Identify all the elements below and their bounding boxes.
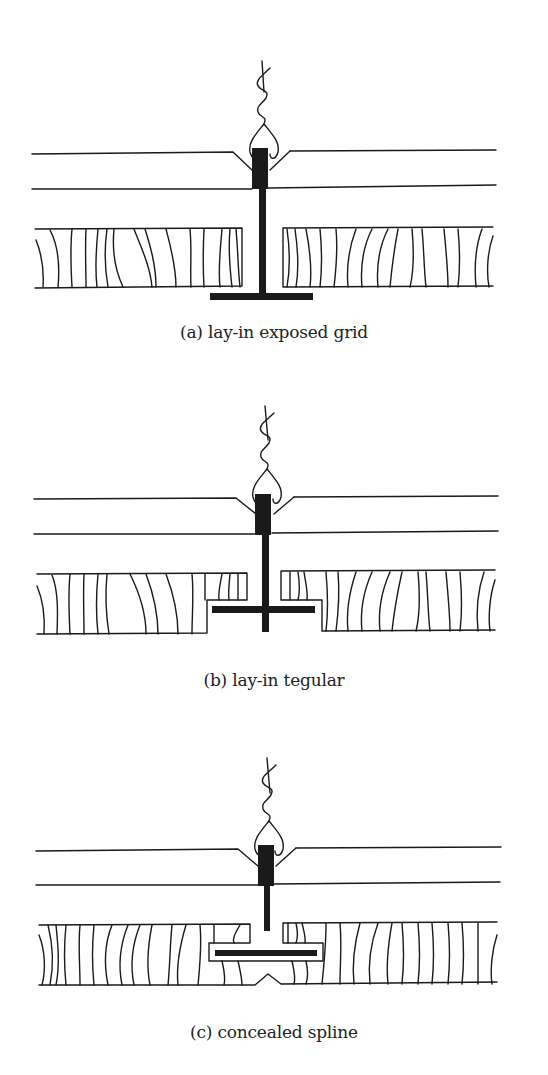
caption-b: (b) lay-in tegular <box>0 670 548 690</box>
tee-stem <box>259 189 266 295</box>
tee-flange <box>210 293 313 300</box>
left-ceiling-panel <box>35 228 242 288</box>
right-ceiling-panel <box>283 227 493 287</box>
hanger-wire-icon <box>253 406 282 503</box>
hanger-wire-icon <box>255 758 284 855</box>
runner-bulb <box>258 845 274 886</box>
hanger-wire-icon <box>250 61 279 158</box>
caption-c: (c) concealed spline <box>0 1022 548 1042</box>
figure-c-concealed-spline <box>36 758 501 985</box>
tee-stem <box>264 886 270 931</box>
right-tegular-panel <box>281 570 495 631</box>
tee-stem <box>262 535 269 632</box>
figure-a-exposed-grid <box>32 61 496 300</box>
runner-bulb <box>252 148 268 189</box>
spline-flange <box>215 950 317 956</box>
ceiling-grid-diagrams <box>0 0 548 1075</box>
left-tegular-panel <box>37 573 247 634</box>
runner-bulb <box>255 494 271 535</box>
tee-flange <box>212 606 315 613</box>
caption-a: (a) lay-in exposed grid <box>0 322 548 342</box>
figure-b-tegular <box>34 406 498 634</box>
